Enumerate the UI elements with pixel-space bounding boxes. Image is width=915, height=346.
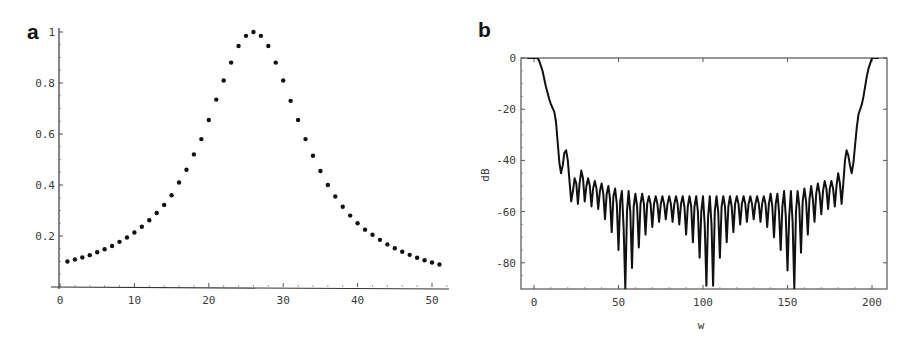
data-point (184, 168, 188, 172)
data-point (244, 34, 248, 38)
data-point (370, 233, 374, 237)
x-tick-label: 100 (693, 296, 713, 309)
data-point (341, 204, 345, 208)
y-tick-label: 1 (48, 26, 55, 39)
data-point (102, 247, 106, 251)
data-point (155, 211, 159, 215)
data-point (88, 253, 92, 257)
data-point (251, 30, 255, 34)
y-axis-title: dB (479, 168, 492, 182)
x-tick-label: 50 (612, 296, 625, 309)
y-tick-label: 0.6 (35, 128, 55, 141)
x-tick-label: 0 (57, 294, 64, 307)
data-point (400, 250, 404, 254)
data-point (355, 221, 359, 225)
data-point (177, 180, 181, 184)
y-tick-label: -60 (496, 206, 516, 219)
data-point (73, 257, 77, 261)
data-point (407, 253, 411, 257)
y-tick-label: 0.8 (35, 77, 55, 90)
data-point (132, 230, 136, 234)
data-point (259, 34, 263, 38)
x-axis (51, 287, 449, 289)
data-point (95, 250, 99, 254)
data-point (207, 118, 211, 122)
data-point (199, 137, 203, 141)
chart-b-line-plot: 0-20-40-60-80050100150200wdB (479, 52, 887, 332)
x-tick-label: 200 (862, 296, 882, 309)
data-point (229, 60, 233, 64)
x-tick-label: 40 (351, 294, 364, 307)
x-tick-label: 30 (277, 294, 290, 307)
data-point (430, 260, 434, 264)
y-tick-label: -80 (496, 257, 516, 270)
data-point (221, 78, 225, 82)
data-point (415, 255, 419, 259)
data-point (117, 240, 121, 244)
data-point (274, 60, 278, 64)
figure-canvas: 0.20.40.60.8101020304050 0-20-40-60-8005… (0, 0, 915, 346)
data-point (296, 118, 300, 122)
x-tick-label: 20 (202, 294, 215, 307)
y-tick-label: -40 (496, 154, 516, 167)
data-point (437, 262, 441, 266)
data-point (162, 203, 166, 207)
response-curve (527, 58, 879, 288)
data-point (266, 44, 270, 48)
data-point (288, 99, 292, 103)
data-point (303, 137, 307, 141)
data-point (281, 78, 285, 82)
data-point (65, 259, 69, 263)
data-point (169, 193, 173, 197)
data-point (318, 169, 322, 173)
y-tick-label: 0 (509, 52, 516, 65)
data-point (140, 225, 144, 229)
y-tick-label: -20 (496, 103, 516, 116)
x-axis-title: w (698, 319, 705, 332)
data-point (236, 44, 240, 48)
data-point (393, 246, 397, 250)
data-point (333, 194, 337, 198)
data-point (147, 218, 151, 222)
x-tick-label: 150 (778, 296, 798, 309)
data-point (214, 97, 218, 101)
data-point (80, 255, 84, 259)
y-tick-label: 0.4 (35, 179, 55, 192)
data-point (422, 258, 426, 262)
data-point (378, 238, 382, 242)
plot-frame (521, 58, 887, 289)
data-point (326, 183, 330, 187)
x-tick-label: 50 (425, 294, 438, 307)
data-point (110, 244, 114, 248)
data-point (125, 235, 129, 239)
data-point (311, 153, 315, 157)
data-point (385, 242, 389, 246)
data-point (192, 152, 196, 156)
x-tick-label: 10 (128, 294, 141, 307)
chart-a-scatter-plot: 0.20.40.60.8101020304050 (35, 26, 449, 307)
data-point (363, 227, 367, 231)
x-tick-label: 0 (531, 296, 538, 309)
data-point (348, 213, 352, 217)
y-tick-label: 0.2 (35, 230, 55, 243)
